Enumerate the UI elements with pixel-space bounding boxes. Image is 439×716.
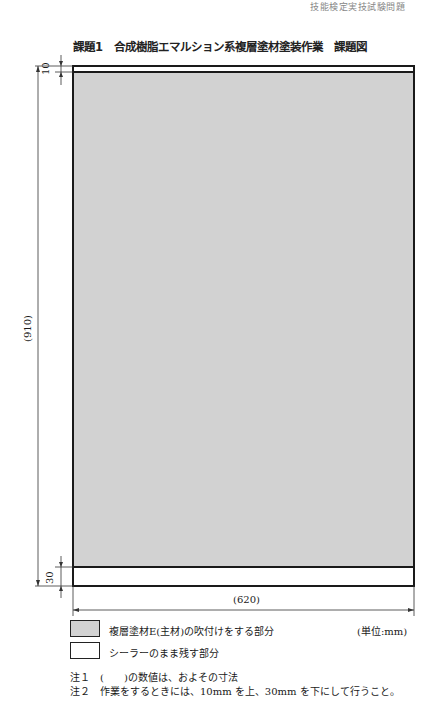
bottom-band-dimension-label: 30	[44, 571, 55, 584]
height-dimension-label: (910)	[22, 315, 33, 342]
legend-label-sprayed: 複層塗材E(主材)の吹付けをする部分	[109, 623, 274, 638]
note-2: 注２ 作業をするときには、10mm を上、30mm を下にして行うこと。	[70, 683, 400, 698]
sprayed-area	[73, 72, 414, 567]
unit-label: (単位:mm)	[357, 623, 407, 638]
width-dimension-label: (620)	[233, 594, 260, 605]
note-1: 注１ ( )の数値は、およその寸法	[70, 669, 238, 684]
top-band-value: 10	[40, 62, 51, 75]
legend-label-sealer: シーラーのまま残す部分	[109, 645, 219, 660]
legend-swatch-sprayed	[70, 620, 100, 637]
legend-swatch-sealer	[70, 642, 100, 659]
task-drawing	[0, 0, 439, 716]
